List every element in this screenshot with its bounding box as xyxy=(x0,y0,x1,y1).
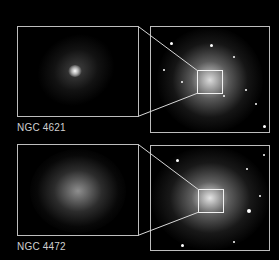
zoom-connector-lines xyxy=(0,0,279,260)
